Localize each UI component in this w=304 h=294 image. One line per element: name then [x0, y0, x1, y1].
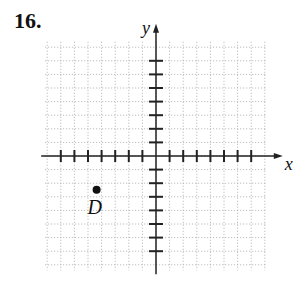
point-label: D	[87, 196, 103, 218]
y-axis-label: y	[140, 18, 150, 38]
y-axis-arrow-icon	[153, 24, 159, 33]
x-axis-arrow-icon	[274, 153, 283, 159]
x-axis-label: x	[284, 154, 293, 174]
point-D	[93, 186, 101, 194]
coordinate-plane: xyD	[0, 0, 304, 294]
